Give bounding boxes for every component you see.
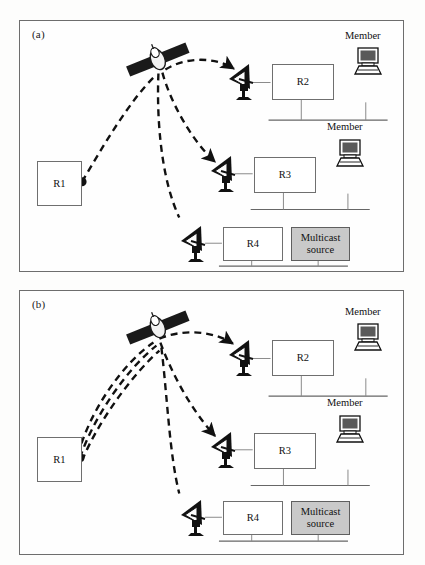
router-label-r2: R2: [297, 76, 309, 88]
downlink-path-r3: [162, 73, 215, 162]
uplink-path-2: [80, 346, 156, 458]
dish-antenna-icon-r4: [178, 224, 210, 264]
panel-a: (a): [19, 20, 404, 272]
router-label-r4: R4: [247, 238, 259, 250]
computer-icon-r2: [353, 323, 383, 353]
uplink-path-1: [82, 76, 155, 182]
router-label-r1: R1: [53, 454, 65, 466]
router-box-r1[interactable]: R1: [37, 161, 82, 206]
router-box-r3[interactable]: R3: [254, 157, 316, 193]
multicast-source-label: Multicastsource: [301, 506, 341, 530]
satellite-icon: [124, 39, 192, 81]
multicast-source-label: Multicastsource: [301, 232, 341, 256]
figure-root: (a): [0, 0, 425, 565]
router-box-r1[interactable]: R1: [37, 437, 82, 482]
member-label-r3: Member: [327, 121, 363, 132]
multicast-source-box[interactable]: Multicastsource: [291, 227, 350, 261]
router-label-r3: R3: [279, 169, 291, 181]
router-box-r3[interactable]: R3: [254, 433, 316, 469]
multicast-source-box[interactable]: Multicastsource: [291, 501, 350, 535]
downlink-path-r4: [161, 348, 179, 494]
downlink-path-r4: [158, 74, 179, 218]
dish-antenna-icon-r4: [178, 498, 210, 538]
dish-antenna-icon-r3: [208, 154, 240, 194]
panel-b: (b): [19, 290, 404, 555]
satellite-icon: [124, 307, 192, 349]
member-label-r3: Member: [327, 397, 363, 408]
uplink-path-1: [78, 343, 153, 455]
member-label-r2: Member: [345, 306, 381, 317]
router-box-r2[interactable]: R2: [272, 340, 334, 376]
uplink-path-3: [82, 351, 159, 461]
dish-antenna-icon-r2: [226, 62, 258, 102]
router-box-r2[interactable]: R2: [272, 64, 334, 100]
router-label-r4: R4: [247, 512, 259, 524]
dish-antenna-icon-r2: [226, 338, 258, 378]
computer-icon-r2: [353, 47, 383, 77]
computer-icon-r3: [335, 139, 365, 169]
router-box-r4[interactable]: R4: [223, 227, 283, 261]
router-label-r1: R1: [53, 178, 65, 190]
computer-icon-r3: [335, 415, 365, 445]
router-box-r4[interactable]: R4: [223, 501, 283, 535]
router-label-r2: R2: [297, 352, 309, 364]
dish-antenna-icon-r3: [208, 430, 240, 470]
router-label-r3: R3: [279, 445, 291, 457]
member-label-r2: Member: [345, 30, 381, 41]
